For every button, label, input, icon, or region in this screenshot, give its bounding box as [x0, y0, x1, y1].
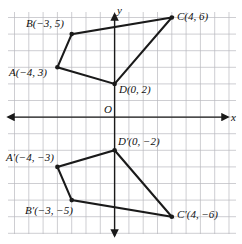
grid-vertical-lines [15, 12, 230, 234]
vertex-c-prime [170, 214, 175, 219]
vertex-b-prime [69, 198, 74, 203]
label-point-b-prime: B′(−3, −5) [25, 204, 73, 217]
label-x-axis: x [230, 111, 236, 123]
label-origin: O [104, 103, 112, 115]
label-y-axis: y [116, 4, 122, 16]
vertex-b [69, 32, 74, 37]
coordinate-plane-figure: B(−3, 5) C(4, 6) A(−4, 3) D(0, 2) D′(0, … [0, 0, 242, 244]
vertex-a [55, 65, 60, 70]
label-point-a-prime: A′(−4, −3) [5, 151, 54, 164]
label-point-d: D(0, 2) [118, 83, 151, 96]
label-point-d-prime: D′(0, −2) [117, 135, 160, 148]
vertex-c [170, 15, 175, 20]
vertex-d-prime [112, 148, 117, 153]
coordinate-grid-svg: B(−3, 5) C(4, 6) A(−4, 3) D(0, 2) D′(0, … [0, 0, 242, 244]
vertex-d [112, 82, 117, 87]
grid-horizontal-lines [8, 18, 236, 234]
label-point-c-prime: C′(4, −6) [177, 208, 218, 221]
label-point-a: A(−4, 3) [8, 66, 47, 79]
vertex-a-prime [55, 165, 60, 170]
label-point-b: B(−3, 5) [26, 17, 64, 30]
label-point-c: C(4, 6) [177, 10, 209, 23]
